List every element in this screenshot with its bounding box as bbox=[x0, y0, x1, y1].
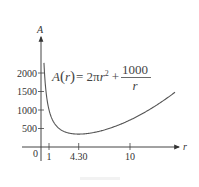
x-ticks: 14.3010 bbox=[47, 143, 136, 162]
y-ticks: 500100015002000 bbox=[17, 68, 44, 135]
formula-term1: = 2π bbox=[76, 69, 100, 84]
faded-caption bbox=[80, 177, 120, 180]
origin-label: 0 bbox=[33, 148, 38, 159]
formula-numerator: 1000 bbox=[122, 62, 148, 77]
formula-plus: + bbox=[112, 69, 119, 84]
y-tick-label: 500 bbox=[22, 123, 37, 134]
y-tick-label: 1500 bbox=[17, 86, 37, 97]
formula-exponent: 2 bbox=[105, 69, 109, 78]
x-axis-label: r bbox=[183, 141, 187, 152]
x-tick-label: 10 bbox=[125, 151, 135, 162]
chart: A r 500100015002000 14.3010 0 A(r)= 2πr2… bbox=[0, 0, 199, 187]
y-tick-label: 2000 bbox=[17, 68, 37, 79]
x-tick-label: 4.30 bbox=[70, 151, 88, 162]
x-tick-label: 1 bbox=[47, 151, 52, 162]
function-formula: A(r)= 2πr2+ 1000 r bbox=[51, 62, 151, 93]
formula-lhs: A bbox=[51, 69, 60, 84]
y-axis-label: A bbox=[36, 24, 44, 35]
formula-denominator: r bbox=[132, 78, 138, 93]
y-tick-label: 1000 bbox=[17, 105, 37, 116]
svg-text:A(r)= 2πr2+: A(r)= 2πr2+ bbox=[51, 68, 119, 85]
